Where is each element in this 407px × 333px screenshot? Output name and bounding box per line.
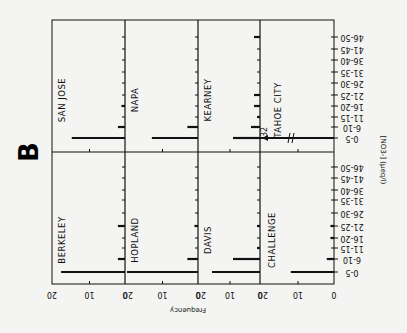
freq-tick-label: 10 — [157, 290, 167, 299]
panel-challenge — [291, 167, 334, 284]
panel-label: DAVIS — [203, 226, 213, 254]
freq-tick-label: 0 — [331, 290, 336, 299]
panel-tahoe-city — [260, 37, 334, 152]
bin-label: 11-15 — [340, 113, 363, 122]
histogram-figure: SAN JOSENAPAKEARNEYTAHOE CITY32BERKELEYH… — [0, 0, 407, 333]
panel-san-jose — [72, 37, 125, 152]
bin-label: 31-35 — [340, 68, 363, 77]
panel-label: KEARNEY — [203, 78, 213, 121]
panel-napa — [152, 37, 198, 152]
bin-label: 41-45 — [340, 174, 363, 183]
bin-label: 41-45 — [340, 45, 363, 54]
figure-label-b: B — [14, 142, 44, 162]
panel-label: SAN JOSE — [57, 78, 67, 122]
frequency-axis-title: Frequency — [170, 306, 206, 314]
panel-kearney — [230, 37, 260, 152]
panel-label: HOPLAND — [130, 217, 140, 262]
panel-berkeley — [61, 167, 125, 284]
bin-label: 46-50 — [340, 33, 363, 42]
panel-label: BERKELEY — [57, 216, 67, 264]
freq-tick-label: 10 — [225, 290, 235, 299]
bin-label: 16-20 — [340, 234, 363, 243]
bin-label: 31-35 — [340, 196, 363, 205]
bin-label: 36-40 — [340, 56, 363, 65]
freq-tick-label: 20 — [196, 290, 206, 299]
bin-label: 16-20 — [340, 102, 363, 111]
bin-label: 21-25 — [340, 91, 363, 100]
bin-label: 46-50 — [340, 163, 363, 172]
bin-label: 36-40 — [340, 186, 363, 195]
panel-label: TAHOE CITY — [273, 82, 283, 139]
panel-label: NAPA — [130, 88, 140, 113]
freq-tick-label: 20 — [123, 290, 133, 299]
bin-label: 0-5 — [345, 268, 358, 277]
panel-davis — [212, 167, 260, 284]
freq-tick-label: 20 — [258, 290, 268, 299]
freq-tick-label: 20 — [47, 290, 57, 299]
break-annotation: 32 — [260, 127, 269, 137]
bin-label: 11-15 — [340, 244, 363, 253]
freq-tick-label: 10 — [293, 290, 303, 299]
bin-label: 0-5 — [345, 134, 358, 143]
bin-label: 21-25 — [340, 222, 363, 231]
freq-tick-label: 10 — [84, 290, 94, 299]
bin-label: 6-10 — [343, 255, 361, 264]
bin-label: 6-10 — [343, 123, 361, 132]
panel-label: CHALLENGE — [267, 212, 277, 268]
bin-label: 26-30 — [340, 79, 363, 88]
bin-label: 26-30 — [340, 209, 363, 218]
concentration-axis-title: [NO3-] (µeq/l) — [379, 136, 387, 185]
